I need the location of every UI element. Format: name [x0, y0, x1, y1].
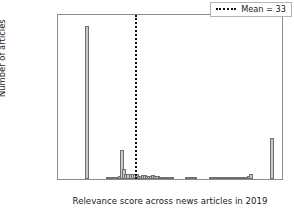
x-tick-mark: [273, 179, 274, 180]
y-tick-mark: [57, 140, 58, 141]
y-tick-mark: [57, 64, 58, 65]
y-tick-mark: [57, 121, 58, 122]
mean-vline: [135, 15, 137, 179]
legend: Mean = 33: [210, 2, 292, 17]
x-tick-mark: [107, 179, 108, 180]
y-tick-mark: [57, 159, 58, 160]
y-tick-mark: [57, 83, 58, 84]
y-tick-mark: [57, 102, 58, 103]
dotted-line-swatch-icon: [216, 8, 236, 10]
x-tick-mark: [66, 179, 67, 180]
x-tick-mark: [149, 179, 150, 180]
y-axis-label: Number of articles: [0, 19, 7, 97]
histogram-figure: 0200004000060000800001000001200001400001…: [0, 0, 294, 215]
y-tick-mark: [57, 26, 58, 27]
y-tick-mark: [57, 179, 58, 180]
legend-entry-label: Mean = 33: [241, 5, 286, 13]
y-tick-mark: [57, 45, 58, 46]
plot-area: 0200004000060000800001000001200001400001…: [57, 14, 283, 180]
x-tick-mark: [232, 179, 233, 180]
x-axis-label: Relevance score across news articles in …: [57, 196, 283, 206]
x-tick-mark: [190, 179, 191, 180]
mean-line-layer: [58, 15, 282, 179]
